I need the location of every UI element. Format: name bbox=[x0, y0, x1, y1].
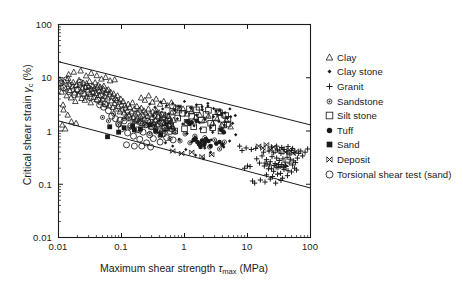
marker-square-filled bbox=[105, 134, 110, 139]
x-mark-cross bbox=[264, 143, 269, 148]
circle-dot-center bbox=[224, 141, 226, 143]
marker-triangle-open bbox=[61, 107, 67, 112]
legend-label: Deposit bbox=[337, 154, 370, 165]
legend-item-sandstone[interactable]: Sandstone bbox=[322, 94, 463, 109]
marker-circle-filled bbox=[206, 139, 211, 144]
marker-triangle-open bbox=[112, 77, 118, 82]
legend-marker-glyph bbox=[323, 153, 336, 166]
marker-diamond-small bbox=[234, 133, 237, 136]
marker-circle-open-large bbox=[150, 136, 156, 142]
marker-plus bbox=[237, 144, 242, 149]
marker-circle-filled bbox=[327, 128, 332, 133]
figure-container: 100 10 1 0.1 0.01 0.01 0.1 1 10 100 Maxi… bbox=[0, 0, 463, 288]
legend-marker-glyph bbox=[323, 95, 336, 108]
marker-triangle-open bbox=[65, 112, 71, 117]
legend-label: Sand bbox=[337, 139, 360, 150]
data-layer bbox=[57, 68, 310, 186]
marker-triangle-open bbox=[94, 73, 100, 78]
marker-plus bbox=[275, 172, 280, 177]
marker-circle-open-large bbox=[130, 133, 136, 139]
legend-item-clay-stone[interactable]: Clay stone bbox=[322, 65, 463, 80]
marker-diamond-small bbox=[164, 141, 167, 144]
marker-plus bbox=[248, 164, 253, 169]
legend-item-granit[interactable]: Granit bbox=[322, 79, 463, 94]
marker-circle-open-large bbox=[164, 135, 170, 141]
legend-label: Torsional shear test (sand) bbox=[337, 169, 451, 180]
marker-circle-dot bbox=[217, 147, 221, 151]
marker-plus bbox=[305, 146, 310, 151]
legend-marker-circle-dot-icon bbox=[322, 95, 337, 108]
marker-circle-dot bbox=[100, 115, 104, 119]
circle-dot-center bbox=[102, 117, 104, 119]
marker-diamond-small bbox=[176, 117, 179, 120]
y-axis-label-symbol: γ bbox=[21, 87, 33, 92]
marker-square-open bbox=[201, 127, 207, 133]
marker-diamond-small bbox=[194, 154, 197, 157]
marker-circle-filled bbox=[198, 145, 203, 150]
marker-plus bbox=[278, 171, 283, 176]
marker-circle-filled bbox=[220, 143, 225, 148]
marker-triangle-open bbox=[60, 102, 66, 107]
marker-plus bbox=[274, 155, 279, 160]
x-mark-cross bbox=[327, 157, 332, 162]
legend-label: Tuff bbox=[337, 125, 353, 136]
marker-plus bbox=[262, 179, 267, 184]
marker-diamond-small bbox=[206, 102, 209, 105]
marker-plus bbox=[302, 150, 307, 155]
legend-marker-glyph bbox=[323, 65, 336, 78]
legend-marker-glyph bbox=[323, 124, 336, 137]
marker-square-open bbox=[326, 112, 333, 119]
marker-diamond-small bbox=[327, 70, 331, 74]
marker-diamond-small bbox=[228, 139, 231, 142]
marker-diamond-small bbox=[211, 130, 214, 133]
chart-legend: ClayClay stoneGranitSandstoneSilt stoneT… bbox=[322, 50, 463, 181]
legend-item-deposit[interactable]: Deposit bbox=[322, 152, 463, 167]
circle-dot-center bbox=[179, 140, 181, 142]
marker-diamond-small bbox=[228, 107, 231, 110]
legend-item-clay[interactable]: Clay bbox=[322, 50, 463, 65]
legend-marker-diamond-small-icon bbox=[322, 65, 337, 78]
x-tick-label-1: 1 bbox=[160, 241, 208, 252]
x-tick-label-10: 10 bbox=[223, 241, 271, 252]
y-tick-label-100: 100 bbox=[12, 19, 52, 30]
legend-item-torsional-shear-test-sand[interactable]: Torsional shear test (sand) bbox=[322, 167, 463, 182]
legend-marker-x-mark-icon bbox=[322, 153, 337, 166]
marker-diamond-small bbox=[184, 148, 187, 151]
legend-marker-circle-open-large-icon bbox=[322, 168, 337, 181]
circle-dot-center bbox=[328, 100, 330, 102]
marker-circle-open-large bbox=[131, 143, 137, 149]
marker-plus bbox=[249, 147, 254, 152]
legend-label: Clay stone bbox=[337, 66, 383, 77]
marker-plus bbox=[326, 83, 332, 89]
marker-circle-open-large bbox=[137, 136, 143, 142]
legend-marker-glyph bbox=[323, 51, 336, 64]
marker-triangle-open bbox=[88, 70, 94, 75]
marker-circle-open-large bbox=[326, 171, 333, 178]
marker-plus bbox=[243, 145, 248, 150]
circle-dot-center bbox=[214, 139, 216, 141]
legend-marker-square-filled-icon bbox=[322, 138, 337, 151]
legend-item-tuff[interactable]: Tuff bbox=[322, 123, 463, 138]
x-axis-label-subscript: max bbox=[222, 267, 236, 276]
marker-plus bbox=[285, 173, 290, 178]
marker-triangle-open bbox=[146, 93, 152, 98]
legend-item-sand[interactable]: Sand bbox=[322, 138, 463, 153]
x-axis-label-unit: (MPa) bbox=[237, 262, 269, 274]
y-axis-label: Critical shear strain γc (%) bbox=[21, 45, 35, 205]
x-tick-label-0.01: 0.01 bbox=[34, 241, 82, 252]
marker-square-filled bbox=[327, 142, 333, 148]
x-tick-label-0.1: 0.1 bbox=[97, 241, 145, 252]
legend-item-silt-stone[interactable]: Silt stone bbox=[322, 108, 463, 123]
marker-circle-open-large bbox=[139, 143, 145, 149]
legend-marker-square-open-icon bbox=[322, 109, 337, 122]
marker-circle-filled bbox=[194, 119, 199, 124]
marker-circle-open-large bbox=[170, 137, 176, 143]
marker-triangle-open bbox=[130, 100, 136, 105]
marker-plus bbox=[239, 148, 244, 153]
marker-circle-open-large bbox=[125, 130, 131, 136]
legend-marker-triangle-open-icon bbox=[322, 51, 337, 64]
x-mark-cross bbox=[189, 150, 194, 155]
marker-triangle-open bbox=[71, 69, 77, 74]
x-tick-label-100: 100 bbox=[286, 241, 334, 252]
marker-x-mark bbox=[189, 150, 194, 155]
